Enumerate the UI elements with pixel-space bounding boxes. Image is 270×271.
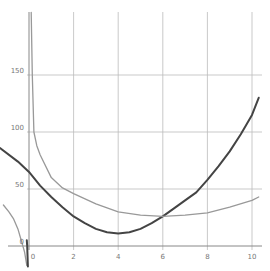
y-tick-label: 50 [15,181,24,189]
x-tick-label: 10 [248,253,257,261]
x-tick-label: 2 [71,253,75,261]
x-tick-label: 8 [205,253,209,261]
x-tick-label: 0 [31,253,35,261]
line-chart: 0246810050100150 [0,0,270,271]
x-tick-label: 6 [161,253,166,261]
grid-lines [27,12,262,250]
y-tick-label: 100 [11,124,24,132]
x-tick-label: 4 [116,253,121,261]
light-curve-right-branch [31,12,259,216]
light-curve-left-branch [3,205,26,265]
y-tick-label: 150 [11,67,24,75]
series-group [0,12,259,266]
dark-curve-left-asymptote [27,240,28,266]
y-tick-label: 0 [20,238,24,246]
